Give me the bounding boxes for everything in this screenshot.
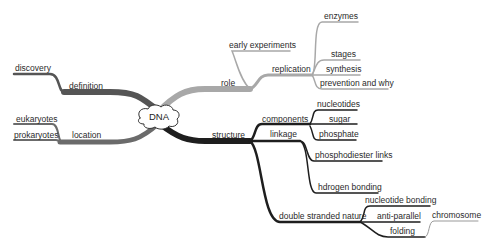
node-role[interactable]: role bbox=[221, 78, 235, 88]
node-stages[interactable]: stages bbox=[331, 49, 356, 59]
node-sugar[interactable]: sugar bbox=[329, 114, 350, 124]
node-prokaryotes[interactable]: prokaryotes bbox=[14, 130, 58, 140]
node-phosphodiester-links[interactable]: phosphodiester links bbox=[315, 150, 393, 160]
node-discovery[interactable]: discovery bbox=[15, 63, 51, 73]
node-definition[interactable]: definition bbox=[69, 81, 103, 91]
node-replication[interactable]: replication bbox=[272, 64, 311, 74]
connector-chromosome bbox=[425, 221, 478, 237]
central-topic-dna[interactable]: DNA bbox=[138, 107, 180, 127]
node-chromosome[interactable]: chromosome bbox=[432, 210, 481, 220]
node-double-stranded-nature[interactable]: double stranded nature bbox=[279, 211, 366, 221]
node-enzymes[interactable]: enzymes bbox=[324, 11, 358, 21]
node-anti-parallel[interactable]: anti-parallel bbox=[377, 211, 421, 221]
node-phosphate[interactable]: phosphate bbox=[319, 129, 359, 139]
node-eukaryotes[interactable]: eukaryotes bbox=[16, 114, 58, 124]
connector-discovery bbox=[14, 74, 64, 92]
node-early-experiments[interactable]: early experiments bbox=[229, 40, 296, 50]
connector-replication bbox=[250, 75, 312, 89]
connector-prokaryotes bbox=[14, 140, 60, 141]
node-prevention-and-why[interactable]: prevention and why bbox=[320, 78, 394, 88]
node-hydrogen-bonding[interactable]: hdrogen bonding bbox=[318, 182, 382, 192]
node-location[interactable]: location bbox=[72, 130, 101, 140]
node-nucleotide-bonding[interactable]: nucleotide bonding bbox=[365, 195, 436, 205]
node-components[interactable]: components bbox=[262, 114, 308, 124]
node-folding[interactable]: folding bbox=[390, 226, 415, 236]
node-linkage[interactable]: linkage bbox=[270, 129, 297, 139]
node-structure[interactable]: structure bbox=[212, 130, 245, 140]
node-nucleotides[interactable]: nucleotides bbox=[317, 99, 360, 109]
node-synthesis[interactable]: synthesis bbox=[326, 64, 361, 74]
